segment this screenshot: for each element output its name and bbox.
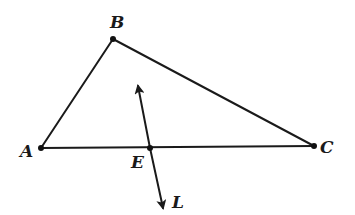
- label-a: A: [18, 141, 33, 161]
- label-e: E: [130, 152, 145, 172]
- triangle-diagram: A B C E L: [0, 0, 355, 215]
- label-b: B: [109, 12, 124, 32]
- segment-bc: [113, 39, 314, 146]
- point-c: [311, 143, 317, 149]
- point-e: [147, 145, 153, 151]
- point-a: [38, 145, 44, 151]
- segment-ab: [41, 39, 113, 148]
- label-c: C: [320, 137, 334, 157]
- line-l: [138, 86, 150, 148]
- label-l: L: [171, 192, 184, 212]
- segment-ac: [41, 146, 314, 148]
- line-l-lower: [150, 148, 163, 208]
- point-b: [110, 36, 116, 42]
